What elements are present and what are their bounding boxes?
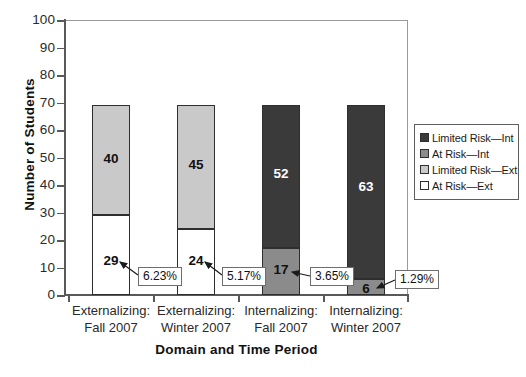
x-tick-4 xyxy=(407,294,409,302)
x-axis-title: Domain and Time Period xyxy=(65,342,408,357)
legend-item-limited-risk-int: Limited Risk—Int xyxy=(420,130,514,145)
legend-label-limited-risk-ext: Limited Risk—Ext xyxy=(432,164,517,176)
stacked-bar-chart-figure: 100 90 80 70 60 50 40 30 20 10 0 Number … xyxy=(0,0,526,377)
x-category-line1: Internalizing: xyxy=(311,302,421,319)
legend-label-at-risk-int: At Risk—Int xyxy=(432,148,489,160)
callout-box-1: 6.23% xyxy=(138,267,182,286)
legend-label-at-risk-ext: At Risk—Ext xyxy=(432,180,493,192)
callout-box-2: 5.17% xyxy=(222,267,266,286)
x-tick-3 xyxy=(323,294,325,302)
legend-label-limited-risk-int: Limited Risk—Int xyxy=(432,132,514,144)
legend: Limited Risk—Int At Risk—Int Limited Ris… xyxy=(414,124,519,200)
x-category-label-internalizing-winter-2007: Internalizing: Winter 2007 xyxy=(311,302,421,336)
legend-item-at-risk-int: At Risk—Int xyxy=(420,146,514,161)
legend-swatch-icon-limited-risk-ext xyxy=(420,165,429,174)
x-tick-0 xyxy=(68,294,70,302)
x-tick-1 xyxy=(153,294,155,302)
legend-item-at-risk-ext: At Risk—Ext xyxy=(420,178,514,193)
x-tick-2 xyxy=(238,294,240,302)
callout-box-3: 3.65% xyxy=(310,267,354,286)
x-category-line2: Winter 2007 xyxy=(311,319,421,336)
legend-swatch-icon-at-risk-ext xyxy=(420,181,429,190)
callout-box-4: 1.29% xyxy=(395,270,439,289)
legend-swatch-icon-at-risk-int xyxy=(420,149,429,158)
legend-item-limited-risk-ext: Limited Risk—Ext xyxy=(420,162,514,177)
legend-swatch-icon-limited-risk-int xyxy=(420,133,429,142)
